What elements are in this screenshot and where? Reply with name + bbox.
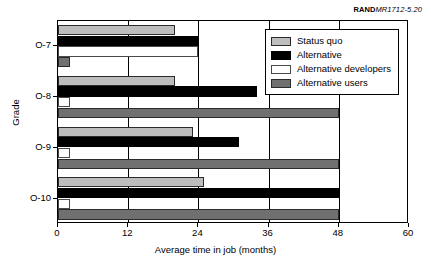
legend-item-label: Alternative developers bbox=[297, 64, 391, 74]
chart-legend: Status quoAlternativeAlternative develop… bbox=[265, 29, 399, 95]
bar bbox=[58, 86, 257, 96]
bar bbox=[58, 177, 204, 187]
x-tick-label: 0 bbox=[37, 228, 77, 238]
legend-item-label: Alternative bbox=[297, 50, 342, 60]
legend-item-label: Status quo bbox=[297, 36, 342, 46]
credit-doc-id: MR1712-5.20 bbox=[375, 5, 422, 14]
y-tick bbox=[53, 96, 57, 97]
bar bbox=[58, 188, 339, 198]
bar bbox=[58, 25, 175, 35]
bar bbox=[58, 76, 175, 86]
y-tick-label: O-9 bbox=[35, 142, 51, 152]
legend-item: Status quo bbox=[271, 34, 391, 48]
y-tick bbox=[53, 45, 57, 46]
rand-document-credit: RANDMR1712-5.20 bbox=[353, 6, 422, 14]
bar bbox=[58, 108, 339, 118]
bar bbox=[58, 127, 193, 137]
legend-item: Alternative users bbox=[271, 76, 391, 90]
x-tick-label: 12 bbox=[107, 228, 147, 238]
bar-group bbox=[58, 127, 407, 170]
bar bbox=[58, 148, 70, 158]
x-tick-label: 24 bbox=[177, 228, 217, 238]
x-tick-label: 60 bbox=[388, 228, 428, 238]
y-tick-label: O-7 bbox=[35, 40, 51, 50]
bar bbox=[58, 36, 198, 46]
credit-brand: RAND bbox=[353, 5, 375, 14]
legend-swatch-icon bbox=[271, 79, 291, 88]
legend-item-label: Alternative users bbox=[297, 78, 368, 88]
bar bbox=[58, 46, 198, 56]
y-axis-label: Grade bbox=[10, 83, 21, 143]
bar bbox=[58, 137, 239, 147]
bar bbox=[58, 159, 339, 169]
bar bbox=[58, 209, 339, 219]
y-tick bbox=[53, 198, 57, 199]
bar-group bbox=[58, 177, 407, 220]
y-tick-label: O-10 bbox=[30, 193, 51, 203]
legend-item: Alternative bbox=[271, 48, 391, 62]
y-tick bbox=[53, 147, 57, 148]
legend-item: Alternative developers bbox=[271, 62, 391, 76]
y-tick-label: O-8 bbox=[35, 91, 51, 101]
bar bbox=[58, 57, 70, 67]
x-tick-label: 48 bbox=[318, 228, 358, 238]
chart-figure: RANDMR1712-5.20 Grade Average time in jo… bbox=[0, 0, 431, 275]
x-axis-label: Average time in job (months) bbox=[0, 244, 431, 255]
legend-swatch-icon bbox=[271, 37, 291, 46]
x-tick-label: 36 bbox=[248, 228, 288, 238]
bar bbox=[58, 97, 70, 107]
legend-swatch-icon bbox=[271, 51, 291, 60]
bar bbox=[58, 199, 70, 209]
legend-swatch-icon bbox=[271, 65, 291, 74]
